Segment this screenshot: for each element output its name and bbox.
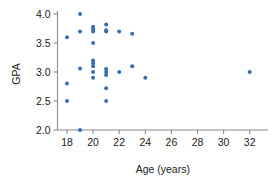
x-axis-tick-label: 30	[218, 136, 230, 148]
x-axis-tick-label: 32	[244, 136, 256, 148]
data-point	[91, 41, 95, 45]
data-point	[91, 76, 95, 80]
data-point	[78, 29, 82, 33]
data-points-layer	[65, 12, 252, 132]
x-axis-tick-label: 18	[61, 136, 73, 148]
x-axis: 1820222426283032	[58, 130, 269, 148]
y-axis-tick-label: 4.0	[36, 8, 51, 20]
x-axis-tick-label: 22	[113, 136, 125, 148]
data-point	[104, 73, 108, 77]
x-axis-tick-label: 26	[166, 136, 178, 148]
y-axis-tick-label: 2.5	[36, 95, 51, 107]
x-axis-tick-label: 28	[192, 136, 204, 148]
data-point	[117, 70, 121, 74]
data-point	[248, 70, 252, 74]
y-axis-tick-label: 2.0	[36, 124, 51, 136]
data-point	[117, 29, 121, 33]
plot-canvas: 2.02.53.03.54.0 1820222426283032 Age (ye…	[0, 0, 274, 178]
y-axis: 2.02.53.03.54.0	[36, 8, 58, 136]
data-point	[91, 70, 95, 74]
x-axis-title: Age (years)	[136, 163, 190, 175]
data-point	[143, 76, 147, 80]
data-point	[78, 12, 82, 16]
data-point	[91, 29, 95, 33]
y-axis-tick-label: 3.0	[36, 66, 51, 78]
data-point	[78, 128, 82, 132]
data-point	[104, 99, 108, 103]
data-point	[104, 22, 108, 26]
y-axis-title: GPA	[10, 63, 22, 84]
data-point	[104, 86, 108, 90]
scatter-plot-figure: 2.02.53.03.54.0 1820222426283032 Age (ye…	[0, 0, 274, 178]
data-point	[65, 82, 69, 86]
data-point	[130, 32, 134, 36]
data-point	[65, 35, 69, 39]
data-point	[78, 67, 82, 71]
data-point	[91, 64, 95, 68]
data-point	[65, 99, 69, 103]
data-point	[104, 29, 108, 33]
x-axis-tick-label: 20	[87, 136, 99, 148]
data-point	[130, 64, 134, 68]
y-axis-tick-label: 3.5	[36, 37, 51, 49]
x-axis-tick-label: 24	[139, 136, 151, 148]
